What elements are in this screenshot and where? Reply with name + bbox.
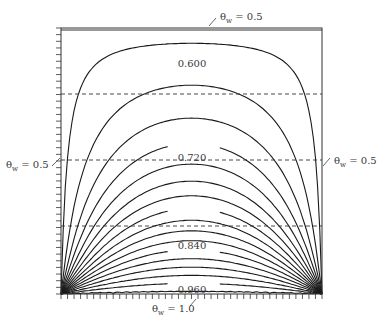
contour-label: 0.840 [178,240,207,251]
boundary-label-left: θw = 0.5 [6,158,60,173]
svg-text:θw = 0.5: θw = 0.5 [6,159,49,173]
svg-text:θw = 0.5: θw = 0.5 [220,11,263,25]
isotherm-0.63 [61,164,322,294]
isotherm-diagram: 0.6000.7200.8400.960 θw = 0.5 θw = 0.5 θ… [0,0,381,332]
isotherm-curves [61,43,322,294]
boundary-label-top: θw = 0.5 [209,11,263,26]
contour-label: 0.720 [178,152,207,163]
contour-label: 0.600 [178,58,207,69]
svg-text:θw = 0.5: θw = 0.5 [334,155,377,169]
contour-label: 0.960 [178,284,207,295]
svg-text:θw = 1.0: θw = 1.0 [152,303,195,317]
boundary-label-bottom: θw = 1.0 [152,299,196,317]
boundary-label-right: θw = 0.5 [323,155,377,169]
